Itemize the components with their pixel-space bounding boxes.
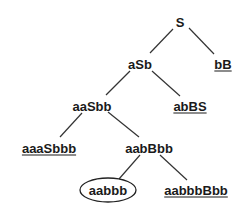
- edge-n0-n2: [189, 28, 214, 54]
- edge-n6-n7: [119, 155, 140, 179]
- node-aabBbb: aabBbb: [125, 142, 173, 155]
- node-aabbbBbb: aabbbBbb: [164, 184, 228, 197]
- edge-n6-n8: [160, 155, 187, 180]
- edge-n1-n4: [152, 71, 180, 96]
- node-aabbb-circled: aabbb: [89, 184, 127, 197]
- node-bB: bB: [214, 58, 231, 71]
- node-aaSbb: aaSbb: [72, 100, 111, 113]
- node-aSb: aSb: [128, 58, 152, 71]
- node-aaaSbbb: aaaSbbb: [22, 142, 76, 155]
- node-root-S: S: [176, 16, 185, 29]
- edge-n1-n3: [106, 71, 130, 95]
- edge-n0-n1: [150, 29, 173, 53]
- edge-n3-n5: [60, 113, 82, 137]
- node-abBS: abBS: [173, 100, 206, 113]
- edge-n3-n6: [108, 112, 139, 137]
